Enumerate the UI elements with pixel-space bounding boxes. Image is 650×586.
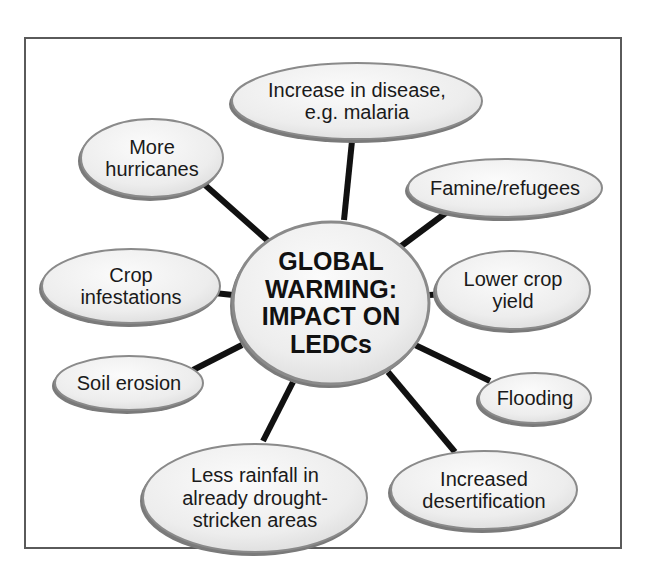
node-lower-crop-yield-label: Lower crop yield [435,250,591,330]
central-node-label: GLOBAL WARMING: IMPACT ON LEDCs [232,221,430,385]
node-flooding-label: Flooding [478,372,592,424]
node-disease-label: Increase in disease, e.g. malaria [231,62,483,140]
mind-map-canvas: Increase in disease, e.g. malariaMore hu… [0,0,650,586]
connector-less-rainfall [263,382,293,441]
node-crop-infestations-label: Crop infestations [41,248,221,324]
connector-disease [344,141,352,220]
node-famine-label: Famine/refugees [407,158,603,218]
node-soil-erosion-label: Soil erosion [54,355,204,411]
node-hurricanes-label: More hurricanes [80,118,224,198]
node-desertification-label: Increased desertification [390,450,578,530]
node-less-rainfall-label: Less rainfall in already drought- strick… [142,443,368,553]
